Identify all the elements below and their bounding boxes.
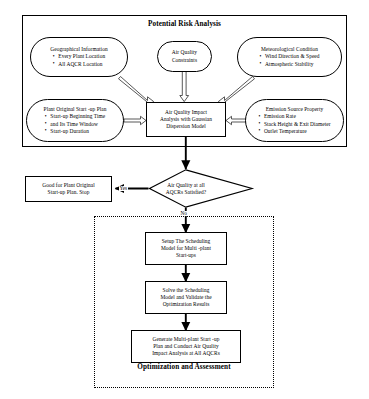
node-meteorological-condition-header: Meteorological Condition — [261, 46, 318, 53]
node-generate-multiplant-plan-line3: Impact Analysis at All AQCRs — [152, 350, 220, 357]
node-solve-scheduling-model-line2: Model and Validate the — [160, 294, 211, 301]
node-emission-source-property: Emission Source Property Emission Rate S… — [245, 99, 344, 142]
list-item: All AQCR Location — [53, 61, 105, 68]
list-item: Outlet Temperature — [258, 128, 330, 135]
node-geographical-information-header: Geographical Information — [50, 46, 107, 53]
node-decision-air-quality-line2: AQCRs Satisfied? — [166, 189, 206, 196]
node-setup-scheduling-model-line1: Setup The Scheduling — [162, 238, 211, 245]
node-plant-original-startup-plan-header: Plant Original Start -up Plan — [44, 106, 107, 113]
node-meteorological-condition: Meteorological Condition Wind Direction … — [237, 37, 342, 77]
node-solve-scheduling-model-line1: Solve the Scheduling — [163, 287, 210, 294]
node-decision-air-quality: Air Quality at all AQCRs Satisfied? — [152, 178, 220, 200]
node-emission-source-property-header: Emission Source Property — [266, 106, 324, 113]
node-solve-scheduling-model: Solve the Scheduling Model and Validate … — [145, 281, 227, 314]
node-meteorological-condition-bullets: Wind Direction & Speed Atmospheric Stabi… — [259, 53, 319, 67]
node-geographical-information: Geographical Information Every Plant Loc… — [30, 37, 128, 77]
node-emission-source-property-bullets: Emission Rate Stack Height & Exit Diamet… — [258, 113, 330, 134]
node-plant-original-startup-plan: Plant Original Start -up Plan Start-up B… — [26, 99, 124, 142]
list-item: Wind Direction & Speed — [259, 53, 319, 60]
node-good-for-plant-original-line2: Start-up Plan. Stop — [48, 189, 90, 196]
node-solve-scheduling-model-line3: Optimization Results — [163, 301, 210, 308]
node-air-quality-constraints: Air Quality Constraints — [157, 41, 212, 72]
section-title-potential-risk-analysis: Potential Risk Analysis — [22, 20, 347, 28]
list-item-continuation: and Its Time Window — [45, 121, 105, 128]
flowchart-canvas: Potential Risk Analysis Optimization and… — [0, 0, 369, 399]
edge-label-no: No — [180, 211, 187, 216]
node-setup-scheduling-model-line2: Model for Multi -plant — [161, 245, 211, 252]
list-item: Start-up Beginning Time — [45, 113, 105, 120]
node-good-for-plant-original: Good for Plant Original Start-up Plan. S… — [25, 176, 112, 202]
node-generate-multiplant-plan-line2: Plan and Conduct Air Quality — [153, 343, 218, 350]
list-item: Every Plant Location — [53, 53, 105, 60]
section-title-optimization-and-assessment: Optimization and Assessment — [94, 363, 274, 371]
list-item: Atmospheric Stability — [259, 61, 319, 68]
node-air-quality-impact-analysis: Air Quality Impact Analysis with Gaussia… — [146, 102, 226, 137]
node-good-for-plant-original-line1: Good for Plant Original — [42, 182, 95, 189]
node-decision-air-quality-line1: Air Quality at all — [167, 182, 205, 189]
node-generate-multiplant-plan: Generate Multi-plant Start -up Plan and … — [131, 330, 241, 363]
node-air-quality-impact-analysis-line1: Air Quality Impact — [165, 109, 207, 116]
node-air-quality-constraints-line2: Constraints — [172, 57, 197, 64]
node-setup-scheduling-model: Setup The Scheduling Model for Multi -pl… — [145, 232, 227, 265]
node-generate-multiplant-plan-line1: Generate Multi-plant Start -up — [153, 336, 220, 343]
node-air-quality-impact-analysis-line2: Analysis with Gaussian — [160, 116, 212, 123]
node-air-quality-impact-analysis-line3: Dispersion Model — [166, 123, 206, 130]
edge-label-yes: Yes — [119, 186, 128, 191]
node-plant-original-startup-plan-bullets: Start-up Beginning Time and Its Time Win… — [45, 113, 105, 134]
list-item: Stack Height & Exit Diameter — [258, 121, 330, 128]
node-air-quality-constraints-line1: Air Quality — [172, 49, 197, 56]
node-setup-scheduling-model-line3: Start-ups — [176, 252, 196, 259]
node-geographical-information-bullets: Every Plant Location All AQCR Location — [53, 53, 105, 67]
list-item: Start-up Duration — [45, 128, 105, 135]
list-item: Emission Rate — [258, 113, 330, 120]
